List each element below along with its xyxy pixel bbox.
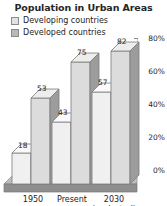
legend-swatch-developing-icon bbox=[11, 17, 19, 25]
plot-area: 0% 20% 40% 60% 80% 18 53 bbox=[0, 34, 167, 206]
bar-value-1950-developed: 53 bbox=[37, 84, 47, 93]
bar-2030-developed bbox=[111, 49, 130, 184]
y-tick-label-20: 20% bbox=[148, 133, 165, 142]
legend-label-developing: Developing countries bbox=[23, 16, 108, 25]
chart-title: Population in Urban Areas bbox=[0, 2, 167, 13]
bar-1950-developed bbox=[31, 96, 50, 184]
urban-population-chart: Population in Urban Areas Developing cou… bbox=[0, 0, 167, 206]
x-label-2030-line2: (projected) bbox=[86, 205, 142, 206]
y-tick-label-0: 0% bbox=[153, 166, 165, 175]
y-tick-label-60: 60% bbox=[148, 67, 165, 76]
x-label-2030: 2030 (projected) bbox=[86, 195, 142, 206]
bar-value-present-developed: 75 bbox=[77, 48, 87, 57]
bar-value-2030-developing: 57 bbox=[98, 78, 108, 87]
bar-value-2030-developed: 82 bbox=[117, 37, 127, 46]
x-label-present-line1: Present bbox=[57, 195, 87, 204]
x-label-1950-line1: 1950 bbox=[23, 195, 43, 204]
bar-1950-developing bbox=[12, 153, 31, 184]
legend-item-developing: Developing countries bbox=[11, 15, 108, 26]
bar-2030-developing bbox=[92, 90, 111, 184]
bar-value-1950-developing: 18 bbox=[18, 141, 28, 150]
bar-present-developing bbox=[52, 120, 71, 184]
bar-present-developed bbox=[71, 60, 90, 184]
x-label-2030-line1: 2030 bbox=[104, 195, 124, 204]
bar-value-present-developing: 43 bbox=[58, 108, 68, 117]
y-tick-label-40: 40% bbox=[148, 100, 165, 109]
y-tick-label-80: 80% bbox=[148, 34, 165, 43]
